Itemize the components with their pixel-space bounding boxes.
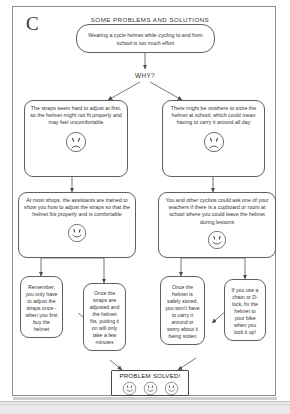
happy-face-icon	[65, 221, 89, 245]
outcome-problem-solved: PROBLEM SOLVED!	[111, 370, 189, 396]
node-text: Once the helmet is safely stored, you wo…	[165, 284, 200, 340]
outcome-label: PROBLEM SOLVED!	[119, 372, 180, 379]
node-text: There might be nowhere to store the helm…	[167, 105, 260, 127]
sad-face-icon	[201, 129, 227, 155]
happy-face-icon	[205, 228, 229, 252]
section-letter: C	[26, 14, 39, 33]
band-edge	[0, 404, 290, 405]
page-title: SOME PROBLEMS AND SOLUTIONS	[60, 16, 240, 23]
node-detail-quick-to-put-on: Once the straps are adjusted and the hel…	[83, 283, 126, 351]
node-text: The straps seem hard to adjust at first,…	[29, 105, 123, 127]
node-detail-adjust-once: Remember, you only have to adjust the st…	[20, 276, 63, 338]
node-problem-right: There might be nowhere to store the helm…	[162, 100, 265, 177]
node-root-problem: Wearing a cycle helmet while cycling to …	[76, 24, 215, 53]
outcome-faces	[120, 380, 181, 397]
node-solution-right: You and other cyclists could ask one of …	[158, 192, 276, 258]
node-text: If you use a chain or D-lock, fix the he…	[229, 287, 261, 336]
happy-face-icon	[162, 380, 181, 397]
page-shadow	[13, 397, 277, 400]
why-label: WHY?	[110, 72, 180, 79]
node-text: You and other cyclists could ask one of …	[163, 197, 271, 226]
node-solution-left: At most shops, the assistants are traine…	[18, 192, 136, 258]
node-text: Once the straps are adjusted and the hel…	[88, 290, 121, 346]
node-problem-left: The straps seem hard to adjust at first,…	[24, 100, 128, 177]
node-text: Wearing a cycle helmet while cycling to …	[81, 32, 210, 46]
bottom-band	[0, 401, 290, 414]
node-detail-no-carrying: Once the helmet is safely stored, you wo…	[160, 276, 205, 345]
happy-face-icon	[120, 380, 139, 397]
sad-face-icon	[63, 129, 89, 155]
node-text: Remember, you only have to adjust the st…	[25, 284, 58, 333]
node-detail-lock-to-bike: If you use a chain or D-lock, fix the he…	[224, 279, 266, 341]
happy-face-icon	[141, 380, 160, 397]
node-text: At most shops, the assistants are traine…	[23, 197, 131, 219]
